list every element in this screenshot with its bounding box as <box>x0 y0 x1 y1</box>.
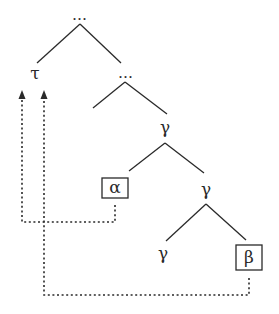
edge-mid-left <box>93 82 125 108</box>
edge-gamma1-gamma2 <box>165 143 204 173</box>
arrowhead-icon <box>19 90 26 99</box>
node-alpha: α <box>109 177 121 197</box>
edge-root-tau <box>37 24 80 63</box>
edge-mid-gamma1 <box>125 82 167 114</box>
syntax-tree-diagram: … τ … γ α γ γ β <box>0 0 279 314</box>
node-root: … <box>72 6 88 24</box>
node-gamma1: γ <box>160 117 170 137</box>
movement-arrow-alpha <box>19 90 116 222</box>
edge-root-mid <box>80 24 121 63</box>
edge-gamma2-gamma3 <box>166 204 206 241</box>
node-beta: β <box>244 247 254 267</box>
arrowhead-icon <box>41 90 48 99</box>
node-gamma3: γ <box>158 243 168 263</box>
edge-gamma1-alpha <box>129 143 165 171</box>
node-gamma2: γ <box>201 179 211 199</box>
tree-edges <box>37 24 246 241</box>
node-tau: τ <box>30 63 39 83</box>
edge-gamma2-beta <box>206 204 246 240</box>
movement-arrow-beta <box>41 90 250 295</box>
node-mid: … <box>118 64 134 82</box>
